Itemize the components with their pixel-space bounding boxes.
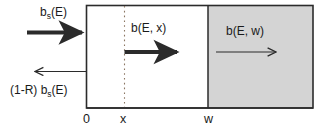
reflected-flux-subscript: s [47,89,51,99]
reflected-flux-argument: (E) [52,83,68,97]
incoming-flux-base: b [40,5,47,19]
reflected-flux-label: (1-R) bs(E) [10,84,68,96]
physics-slab-flux-diagram: bs(E) (1-R) bs(E) b(E, x) b(E, w) 0 x w [0,0,330,134]
incoming-flux-argument: (E) [51,5,67,19]
incoming-flux-label: bs(E) [40,6,67,18]
interior-flux-label: b(E, x) [131,22,166,34]
exit-flux-label: b(E, w) [226,25,264,37]
axis-tick-label-origin: 0 [83,113,90,126]
axis-tick-label-w: w [204,113,213,126]
incoming-flux-subscript: s [47,11,51,21]
axis-tick-label-x: x [120,113,126,126]
shaded-region-w-to-edge [208,6,313,109]
reflected-flux-prefix: (1-R) b [10,83,47,97]
